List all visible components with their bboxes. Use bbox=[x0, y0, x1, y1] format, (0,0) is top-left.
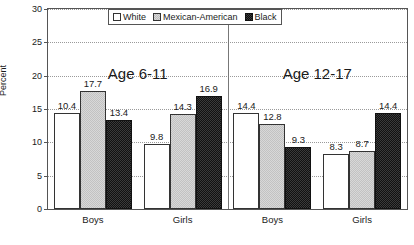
x-tick-label-boys-3: Boys bbox=[228, 215, 318, 225]
y-tick-label-0: 0 bbox=[14, 205, 42, 214]
bar-value-label: 14.4 bbox=[369, 101, 407, 111]
y-tick-mark-0 bbox=[44, 209, 48, 210]
bar-value-label: 14.3 bbox=[164, 102, 202, 112]
y-tick-label-20: 20 bbox=[14, 72, 42, 81]
y-tick-label-15: 15 bbox=[14, 105, 42, 114]
y-tick-mark-25 bbox=[44, 42, 48, 43]
gridline-0 bbox=[48, 209, 407, 210]
y-tick-label-10: 10 bbox=[14, 138, 42, 147]
bar-value-label: 12.8 bbox=[253, 112, 291, 122]
y-tick-label-25: 25 bbox=[14, 38, 42, 47]
bar-boys-black bbox=[106, 120, 132, 209]
x-tick-label-girls-2: Girls bbox=[138, 215, 228, 225]
bar-girls-white bbox=[323, 154, 349, 209]
bar-girls-white bbox=[144, 144, 170, 209]
legend-swatch-white-icon bbox=[113, 13, 121, 21]
legend-swatch-black-icon bbox=[245, 13, 253, 21]
bar-girls-black bbox=[375, 113, 401, 209]
bar-boys-white bbox=[54, 113, 80, 209]
bar-value-label: 8.7 bbox=[343, 139, 381, 149]
y-axis-title: Percent bbox=[0, 65, 8, 96]
legend-swatch-mexican-american-icon bbox=[153, 13, 161, 21]
y-tick-label-30: 30 bbox=[14, 5, 42, 14]
bar-girls-black bbox=[196, 96, 222, 209]
bar-boys-black bbox=[285, 147, 311, 209]
legend-item-mexican-american: Mexican-American bbox=[153, 12, 238, 22]
legend-item-black: Black bbox=[245, 12, 277, 22]
bar-chart: Percent WhiteMexican-AmericanBlack 05101… bbox=[0, 0, 414, 245]
bar-boys-white bbox=[233, 113, 259, 209]
bar-value-label: 9.3 bbox=[279, 135, 317, 145]
y-tick-label-5: 5 bbox=[14, 172, 42, 181]
group-heading-2: Age 12-17 bbox=[228, 65, 408, 82]
x-tick-label-boys-1: Boys bbox=[48, 215, 138, 225]
y-tick-mark-30 bbox=[44, 9, 48, 10]
legend-label: Black bbox=[255, 12, 277, 22]
y-tick-mark-10 bbox=[44, 142, 48, 143]
legend-label: Mexican-American bbox=[163, 12, 238, 22]
legend-label: White bbox=[123, 12, 146, 22]
bar-value-label: 17.7 bbox=[74, 79, 112, 89]
bar-girls-mexican-american bbox=[170, 114, 196, 209]
y-tick-mark-5 bbox=[44, 176, 48, 177]
bar-value-label: 13.4 bbox=[100, 108, 138, 118]
bar-value-label: 10.4 bbox=[48, 101, 86, 111]
legend: WhiteMexican-AmericanBlack bbox=[108, 9, 282, 25]
bar-value-label: 14.4 bbox=[227, 101, 265, 111]
bar-value-label: 16.9 bbox=[190, 84, 228, 94]
bar-value-label: 9.8 bbox=[138, 132, 176, 142]
x-tick-label-girls-4: Girls bbox=[317, 215, 407, 225]
legend-item-white: White bbox=[113, 12, 146, 22]
bar-girls-mexican-american bbox=[349, 151, 375, 209]
